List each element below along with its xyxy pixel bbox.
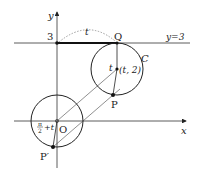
diagram-canvas: y x 3 y=3 t Q C t (t, 2) P P′ O π 2 +t <box>0 0 200 172</box>
y-tick-3: 3 <box>47 31 53 42</box>
point-p-prime <box>51 145 55 149</box>
point-3 <box>55 41 59 45</box>
line-o-center <box>57 69 117 121</box>
radius-p <box>113 69 117 95</box>
point-p-label: P <box>111 99 118 110</box>
point-p-prime-label: P′ <box>40 151 50 162</box>
point-p <box>111 93 115 97</box>
center-angle-label: t <box>109 63 113 73</box>
arc-label: t <box>85 27 89 37</box>
origin-label: O <box>59 124 67 135</box>
center-label: (t, 2) <box>119 65 142 75</box>
line-label: y=3 <box>165 32 185 42</box>
y-axis-label: y <box>47 10 54 21</box>
angle-rest: +t <box>44 123 55 132</box>
point-q-label: Q <box>114 31 122 42</box>
x-axis-label: x <box>181 125 187 136</box>
angle-frac-den: 2 <box>38 127 42 134</box>
angle-frac-num: π <box>38 120 42 127</box>
circle-c-label: C <box>141 53 149 64</box>
